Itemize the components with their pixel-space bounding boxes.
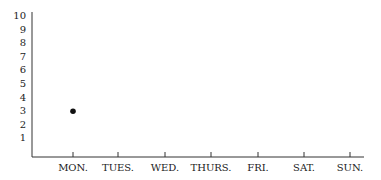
y-tick-label: 4 [6,93,26,103]
x-tick-label: SUN. [337,163,364,173]
y-tick-label: 2 [6,120,26,130]
x-tick-label: TUES. [102,163,134,173]
y-tick-label: 6 [6,65,26,75]
x-tick-label: FRI. [247,163,269,173]
y-tick-label: 10 [6,11,26,21]
x-tick-label: THURS. [190,163,231,173]
y-tick-label: 5 [6,79,26,89]
chart-canvas [0,0,381,180]
data-point [70,108,76,114]
x-tick-label: MON. [58,163,88,173]
chart: 12345678910 MON.TUES.WED.THURS.FRI.SAT.S… [0,0,381,180]
x-tick-label: WED. [151,163,179,173]
x-tick-label: SAT. [293,163,315,173]
x-ticks [73,152,350,157]
y-tick-label: 7 [6,52,26,62]
y-tick-label: 9 [6,25,26,35]
y-tick-label: 3 [6,106,26,116]
y-tick-label: 1 [6,133,26,143]
data-points [70,108,76,114]
y-tick-label: 8 [6,38,26,48]
